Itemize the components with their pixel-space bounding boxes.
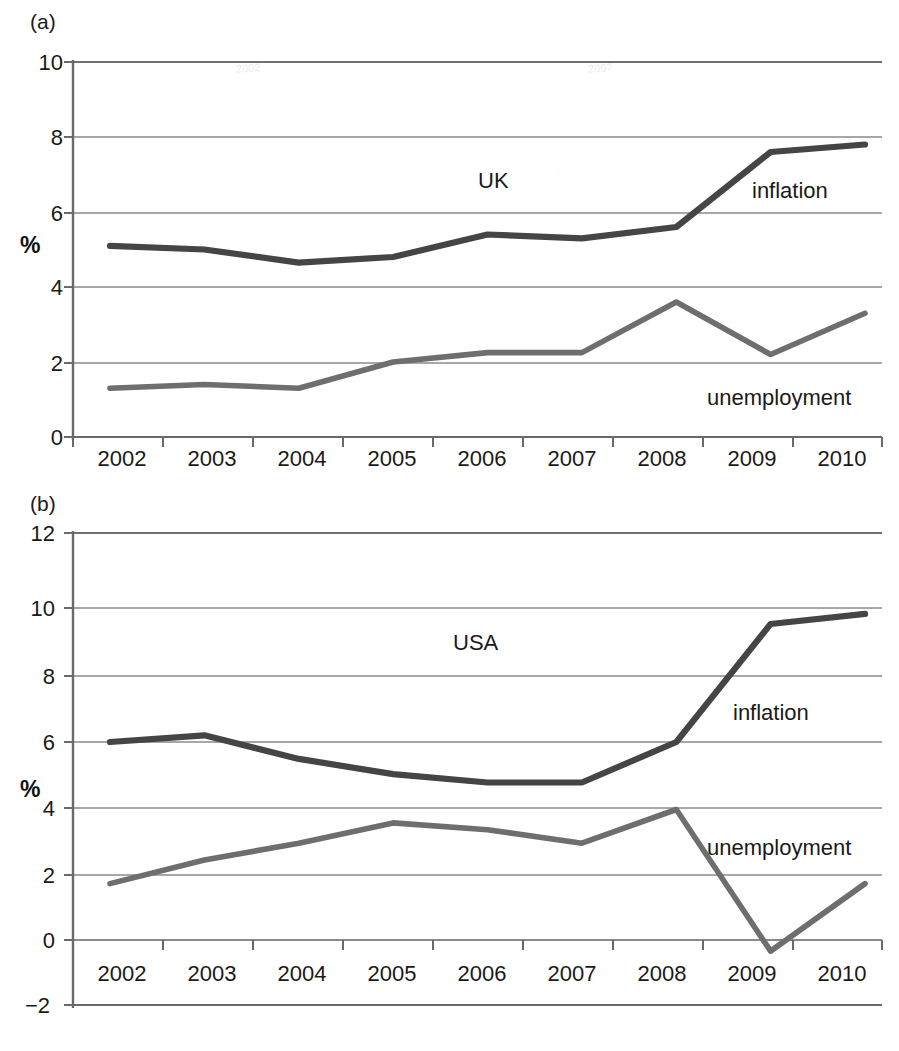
panel-b-series-unemployment bbox=[110, 810, 865, 952]
chart-panel-a: (a) % 10 8 6 4 2 0 2002 2003 2004 2005 2… bbox=[0, 0, 899, 500]
scan-artifact: 2007 bbox=[588, 61, 613, 75]
panel-b-inflation-label: inflation bbox=[733, 700, 809, 726]
panel-a-plot bbox=[0, 0, 899, 500]
panel-a-inflation-label: inflation bbox=[752, 178, 828, 204]
panel-a-region-label: UK bbox=[478, 168, 509, 194]
panel-a-gridlines bbox=[73, 62, 882, 363]
panel-b-unemployment-label: unemployment bbox=[707, 835, 851, 861]
panel-b-plot bbox=[0, 480, 899, 1051]
scan-artifact: 2002 bbox=[236, 61, 261, 75]
panel-a-series-unemployment bbox=[110, 302, 865, 388]
scan-artifact: · bbox=[556, 165, 561, 177]
panel-b-region-label: USA bbox=[453, 630, 498, 656]
panel-a-unemployment-label: unemployment bbox=[707, 385, 851, 411]
figure-container: (a) % 10 8 6 4 2 0 2002 2003 2004 2005 2… bbox=[0, 0, 899, 1051]
chart-panel-b: (b) % 12 10 8 6 4 2 0 −2 2002 2003 2004 … bbox=[0, 480, 899, 1051]
